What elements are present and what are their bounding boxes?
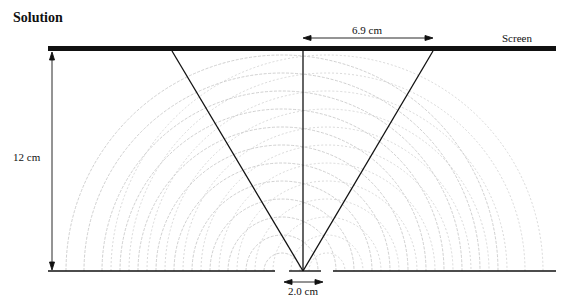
wavefronts-left-slit — [66, 55, 498, 271]
wavefront-arc — [228, 217, 336, 271]
wavefront-arc — [237, 181, 417, 271]
screen-label: Screen — [502, 32, 532, 44]
rays — [172, 51, 433, 271]
ray-right — [303, 51, 433, 271]
screen-bar — [48, 46, 556, 51]
ray-left — [172, 51, 303, 271]
wavefront-arc — [192, 181, 372, 271]
wavefront-arc — [84, 73, 480, 271]
double-slit-diagram — [0, 0, 567, 298]
wavefront-arc — [273, 217, 381, 271]
slit-separation-label: 2.0 cm — [288, 285, 318, 297]
fringe-distance-label: 6.9 cm — [352, 24, 382, 36]
dimension-fringe — [303, 36, 433, 41]
wavefront-arc — [165, 109, 489, 271]
dimension-distance — [50, 52, 55, 270]
screen-distance-label: 12 cm — [13, 151, 40, 163]
wavefronts-right-slit — [111, 55, 543, 271]
wavefront-arc — [120, 109, 444, 271]
dimension-slits — [284, 280, 323, 285]
